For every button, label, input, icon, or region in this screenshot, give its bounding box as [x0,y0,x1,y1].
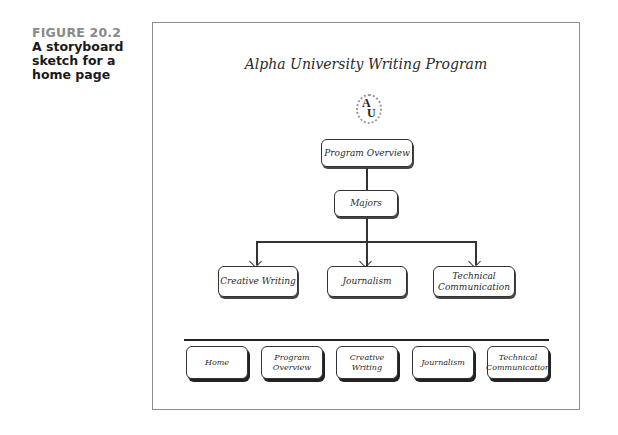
nav-button-technical-communication[interactable]: Technical Communication [487,346,549,379]
nav-button-label: Creative Writing [337,353,397,372]
nav-button-label: Technical Communication [486,353,550,372]
node-journalism: Journalism [327,266,407,297]
connector-line [366,168,368,190]
logo-letter-u: U [367,106,376,121]
node-label: Majors [350,198,382,209]
node-majors: Majors [334,190,398,217]
university-seal-icon: A U [356,94,382,124]
storyboard-frame: Alpha University Writing Program A U Pro… [152,22,580,410]
figure-label: FIGURE 20.2 [32,26,142,40]
figure-caption: FIGURE 20.2 A storyboard sketch for a ho… [32,26,142,82]
node-label: Journalism [342,276,391,287]
branch-line [256,241,477,243]
nav-button-journalism[interactable]: Journalism [412,346,474,379]
node-program-overview: Program Overview [321,139,413,167]
node-label: Technical Communication [434,271,514,293]
node-creative-writing: Creative Writing [218,266,298,297]
nav-button-home[interactable]: Home [186,346,248,379]
node-technical-communication: Technical Communication [433,266,515,297]
nav-button-label: Journalism [421,358,465,368]
nav-button-label: Home [205,358,229,368]
nav-button-label: Program Overview [262,353,322,372]
nav-button-creative-writing[interactable]: Creative Writing [336,346,398,379]
node-label: Creative Writing [220,276,296,287]
node-label: Program Overview [324,148,410,159]
nav-button-program-overview[interactable]: Program Overview [261,346,323,379]
nav-divider [184,339,549,341]
site-title: Alpha University Writing Program [153,56,579,72]
figure-title: A storyboard sketch for a home page [32,40,142,82]
